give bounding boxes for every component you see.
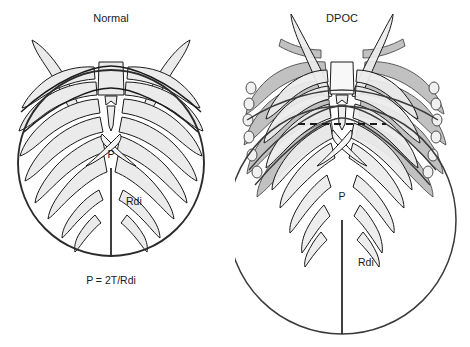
radius-label-normal: Rdi bbox=[126, 195, 142, 207]
pressure-label-normal: P bbox=[107, 148, 114, 160]
pressure-label-dpoc: P bbox=[338, 190, 345, 202]
panel-dpoc: DPOC P Rdi bbox=[235, 0, 470, 347]
radius-label-dpoc: Rdi bbox=[358, 256, 374, 268]
panel-normal: Normal P Rdi P = 2T/Rdi bbox=[0, 0, 235, 347]
panel-title-normal: Normal bbox=[93, 12, 128, 24]
panel-title-dpoc: DPOC bbox=[326, 12, 358, 24]
figure-root: Normal P Rdi P = 2T/Rdi bbox=[0, 0, 470, 347]
laplace-formula: P = 2T/Rdi bbox=[86, 274, 136, 286]
